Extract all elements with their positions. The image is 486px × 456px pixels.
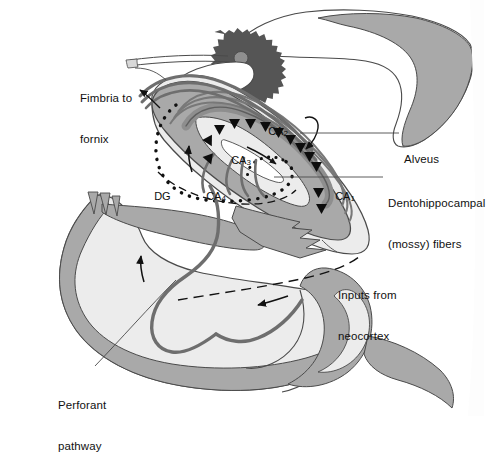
- callout-mossy-line1: Dentohippocampal: [388, 197, 486, 211]
- callout-dentohippocampal-mossy-fibers: Dentohippocampal (mossy) fibers: [388, 170, 486, 265]
- callout-fimbria-to-fornix: Fimbria to fornix: [80, 65, 132, 160]
- region-label-ca2: CA2: [262, 113, 288, 138]
- region-ca1-base: CA: [335, 190, 350, 202]
- region-label-ca3: CA3: [225, 142, 251, 167]
- region-ca3-sub: 3: [246, 158, 250, 167]
- callout-fimbria-line1: Fimbria to: [80, 92, 132, 106]
- region-ca2-base: CA: [268, 125, 283, 137]
- callout-alveus-line1: Alveus: [404, 153, 439, 167]
- region-label-dentate-gyrus: DG: [148, 178, 171, 203]
- region-ca4-base: CA: [206, 190, 221, 202]
- leader-fimbria: [135, 68, 166, 80]
- region-ca3-base: CA: [231, 154, 246, 166]
- callout-inputs-from-neocortex: Inputs from neocortex: [338, 262, 397, 357]
- region-label-ca1: CA1: [329, 178, 355, 203]
- callout-inputs-line2: neocortex: [338, 330, 397, 344]
- callout-inputs-line1: Inputs from: [338, 289, 397, 303]
- callout-perforant-pathway: Perforant pathway: [58, 372, 106, 456]
- region-ca4-sub: 4: [221, 194, 225, 203]
- region-dg-base: DG: [154, 190, 171, 202]
- callout-mossy-line2: (mossy) fibers: [388, 238, 486, 252]
- callout-fimbria-line2: fornix: [80, 133, 132, 147]
- region-ca2-sub: 2: [283, 129, 287, 138]
- callout-perforant-line2: pathway: [58, 440, 106, 454]
- region-label-ca4: CA4: [200, 178, 226, 203]
- callout-perforant-line1: Perforant: [58, 399, 106, 413]
- region-ca1-sub: 1: [350, 194, 354, 203]
